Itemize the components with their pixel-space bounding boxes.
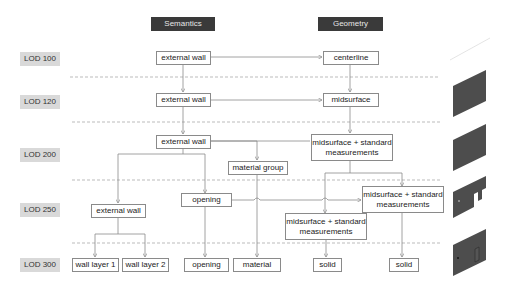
node-opening-lod250: opening [181, 193, 232, 207]
node-external-wall-lod100: external wall [156, 51, 211, 65]
node-material-lod300: material [233, 258, 281, 272]
node-midsurface-standard-right-lod250: midsurface + standard measurements [362, 186, 444, 213]
lod-label-100: LOD 100 [20, 52, 60, 66]
node-solid-right-lod300: solid [389, 258, 419, 272]
node-external-wall-lod120: external wall [156, 93, 211, 107]
wall-thumbnail-lod200 [452, 122, 488, 172]
node-external-wall-lod200: external wall [156, 135, 211, 149]
wall-thumbnail-lod300 [452, 227, 488, 277]
lod-label-250: LOD 250 [20, 203, 60, 217]
node-wall-layer-1-lod300: wall layer 1 [72, 258, 119, 272]
node-wall-layer-2-lod300: wall layer 2 [122, 258, 169, 272]
node-midsurface-standard-left-lod250: midsurface + standard measurements [285, 213, 367, 240]
geometry-header: Geometry [318, 17, 383, 31]
lod-label-120: LOD 120 [20, 95, 60, 109]
lod-label-300: LOD 300 [20, 258, 60, 272]
node-opening-lod300: opening [184, 258, 229, 272]
node-midsurface-lod120: midsurface [323, 93, 379, 107]
node-midsurface-standard-lod200: midsurface + standard measurements [311, 134, 393, 161]
node-external-wall-lod250: external wall [91, 204, 146, 218]
semantics-header: Semantics [151, 17, 215, 31]
wall-thumbnail-lod120 [452, 68, 488, 118]
node-solid-left-lod300: solid [313, 258, 342, 272]
node-material-group-lod200: material group [228, 161, 288, 175]
connector-lines [0, 0, 506, 289]
node-centerline-lod100: centerline [323, 51, 379, 65]
lod-label-200: LOD 200 [20, 148, 60, 162]
wall-thumbnail-lod250 [452, 174, 488, 224]
